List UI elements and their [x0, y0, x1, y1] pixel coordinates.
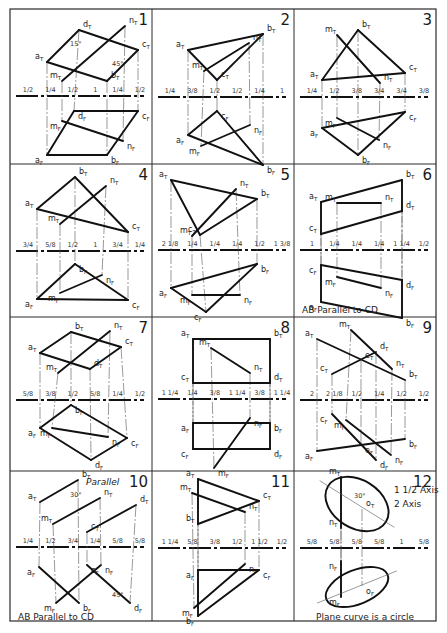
dimension-label: 1/2 [396, 390, 406, 398]
dimension-label: 1 [93, 86, 97, 94]
point-label-cF: cF [263, 571, 271, 581]
dimension-label: 5/8 [374, 538, 384, 546]
dimension-label: 2 [310, 390, 314, 398]
point-label-bF: bF [111, 156, 119, 166]
projection-line [102, 186, 106, 275]
dimension-label: 5/8 [23, 390, 33, 398]
point-label-oF: oF [366, 587, 374, 597]
point-label-cF: cF [221, 112, 229, 122]
dimension-label: 3/8 [352, 87, 362, 95]
point-label-aT: aT [176, 40, 185, 50]
point-label-aF: aF [305, 452, 313, 462]
projection-line [211, 348, 214, 468]
point-label-mT: mT [325, 25, 337, 35]
dimension-label: 3/8 [45, 390, 55, 398]
segment-aT-bT [40, 332, 71, 353]
segment-mF-nF [337, 277, 381, 288]
point-label-bT: bT [406, 170, 415, 180]
projection-line [90, 369, 91, 460]
point-label-cT: cT [142, 40, 150, 50]
dimension-label: 2 1/8 [326, 390, 343, 398]
dimension-label: 5/8 [307, 538, 317, 546]
point-label-cF: cF [142, 112, 150, 122]
dimension-label: 5/8 [90, 390, 100, 398]
point-label-nF: nF [249, 565, 257, 575]
dimension-label: 1/2 [232, 538, 242, 546]
point-label-aF: aF [28, 429, 36, 439]
dimension-label: 1/2 [68, 86, 78, 94]
problem-10: 10aTbTcTdTmTnTaFbFcFdFmFnF1/41/23/41/45/… [16, 470, 149, 622]
point-label-cF: cF [309, 266, 317, 276]
segment-mT-nT [60, 186, 106, 224]
point-label-cF: cF [409, 113, 417, 123]
problem-number: 5 [280, 166, 290, 184]
point-label-aF: aF [159, 289, 167, 299]
point-label-aF: aF [35, 156, 43, 166]
dimension-label: 3/8 [187, 87, 197, 95]
dimension-label: 5/8 [45, 241, 55, 249]
point-label-aT: aT [28, 492, 37, 502]
drawing-sheet: 1aTbTcTdTmTnTaFbFcFdFmFnF1/21/41/211/41/… [0, 0, 447, 633]
point-label-nF: nF [244, 296, 252, 306]
dimension-label: 5/8 [135, 537, 145, 545]
point-label-bT: bT [267, 24, 276, 34]
problem-12: 12mTnToTnFmFoF5/85/85/85/815/830°1 1/2 A… [300, 466, 439, 622]
dimension-label: 3/4 [374, 87, 384, 95]
problem-6: 6aTbTcTdTmTnTaFbFcFdFmFnF11/41/41/41 1/4… [300, 166, 432, 329]
projection-line [100, 498, 101, 565]
point-label-bT: bT [409, 370, 418, 380]
dimension-label: 5/8 [419, 538, 429, 546]
point-label-nF: nF [383, 141, 391, 151]
dimension-label: 1 1/2 [251, 538, 268, 546]
point-label-aF: aF [181, 424, 189, 434]
segment-dF-aF [47, 111, 74, 155]
segment-mT-nT [192, 189, 236, 236]
point-label-aT: aT [305, 329, 314, 339]
point-label-dT: dT [83, 20, 92, 30]
angle-label: 15° [70, 40, 82, 48]
projection-line [249, 43, 250, 125]
point-label-dT: dT [140, 495, 149, 505]
dimension-label: 1/4 [329, 240, 339, 248]
point-label-aF: aF [176, 136, 184, 146]
point-label-bT: bT [362, 20, 371, 30]
point-label-dF: dF [78, 112, 86, 122]
segment-aF-bF [39, 567, 79, 603]
point-label-mT: mT [329, 467, 341, 477]
segment-aT-bT [188, 34, 263, 50]
point-label-nF: nF [254, 126, 262, 136]
problem-number: 2 [280, 11, 290, 29]
dimension-label: 1/2 [135, 390, 145, 398]
point-label-dF: dF [406, 281, 414, 291]
point-label-nT: nT [385, 193, 394, 203]
segment-mF-nF [60, 275, 102, 293]
point-label-nF: nF [395, 456, 403, 466]
point-label-bT: bT [261, 189, 270, 199]
point-label-bF: bF [75, 406, 83, 416]
point-label-mT: mT [192, 61, 204, 71]
problem-number: 1 [138, 11, 148, 29]
problem-number: 11 [271, 473, 290, 491]
dimension-label: 1 1/4 [162, 538, 179, 546]
dimension-label: 1 3/8 [274, 240, 291, 248]
dimension-label: 1/4 [232, 240, 242, 248]
point-label-dF: dF [274, 450, 282, 460]
point-label-bF: bF [362, 156, 370, 166]
projection-line [39, 502, 40, 567]
projection-line [130, 505, 136, 603]
point-label-cF: cF [181, 450, 189, 460]
point-label-aT: aT [310, 70, 319, 80]
projection-line [200, 235, 206, 312]
point-label-mF: mF [329, 598, 340, 608]
point-label-mF: mF [325, 278, 336, 288]
dimension-label: 1/4 [187, 389, 197, 397]
dimension-label: 1/4 [307, 87, 317, 95]
dimension-label: 3/8 [210, 538, 220, 546]
dimension-label: 3/4 [396, 87, 406, 95]
point-label-aT: aT [28, 343, 37, 353]
point-label-cT: cT [263, 491, 271, 501]
projection-line [123, 26, 125, 141]
dimension-label: 1/4 [210, 240, 220, 248]
problem-number: 10 [129, 473, 148, 491]
dimension-label: 1/2 [68, 390, 78, 398]
